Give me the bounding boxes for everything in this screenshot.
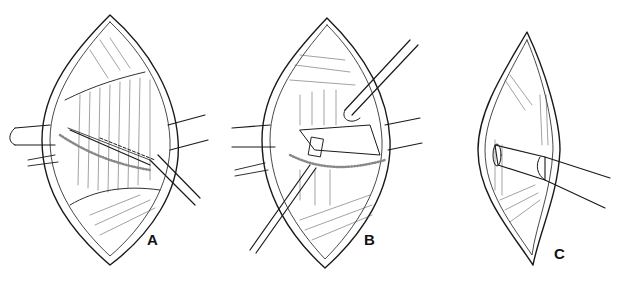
surgical-illustration xyxy=(0,0,618,290)
panel-c-drawing xyxy=(478,32,610,265)
panel-a-drawing xyxy=(10,15,208,265)
panel-label-a: A xyxy=(147,231,158,248)
panel-label-b: B xyxy=(364,231,375,248)
panel-b-drawing xyxy=(232,18,422,268)
panel-label-c: C xyxy=(554,245,565,262)
